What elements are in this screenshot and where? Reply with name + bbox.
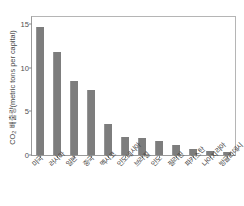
y-axis-title: CO2 배출량(metric tons per capital) xyxy=(6,14,17,162)
x-axis-tick-label: 중국 xyxy=(81,161,88,168)
x-axis-tick-label: 브라질 xyxy=(131,161,138,168)
x-axis-tick-label: 미국 xyxy=(30,161,37,168)
x-axis-tick-label: 방글라데시 xyxy=(216,161,223,168)
y-axis-title-prefix: CO xyxy=(8,134,17,145)
chart-figure: CO2 배출량(metric tons per capital) 051015 … xyxy=(0,0,244,206)
x-axis-tick-label: 러시아 xyxy=(47,161,54,168)
y-axis-tick-label: 10 xyxy=(21,63,29,72)
x-axis-tick-label: 필리핀 xyxy=(165,161,172,168)
y-axis-title-subscript: 2 xyxy=(11,131,17,134)
x-axis-tick-label: 나이지리아 xyxy=(199,161,206,168)
x-axis-tick-label: 인도 xyxy=(148,161,155,168)
chart-title xyxy=(0,0,244,1)
x-axis-tick-label: 파키스탄 xyxy=(182,161,189,168)
x-axis-tick-label: 일본 xyxy=(64,161,71,168)
bar xyxy=(36,27,44,155)
x-axis-tick-label: 인도네시아 xyxy=(114,161,121,168)
bar xyxy=(53,52,61,155)
bar-series xyxy=(32,17,235,155)
y-axis-tick-label: 15 xyxy=(21,19,29,28)
bar xyxy=(155,141,163,155)
x-axis-tick-label: 멕시코 xyxy=(98,161,105,168)
bar xyxy=(87,90,95,155)
bar xyxy=(70,81,78,155)
y-axis-title-rest: 배출량(metric tons per capital) xyxy=(8,30,17,130)
plot-area: 051015 xyxy=(31,16,236,156)
